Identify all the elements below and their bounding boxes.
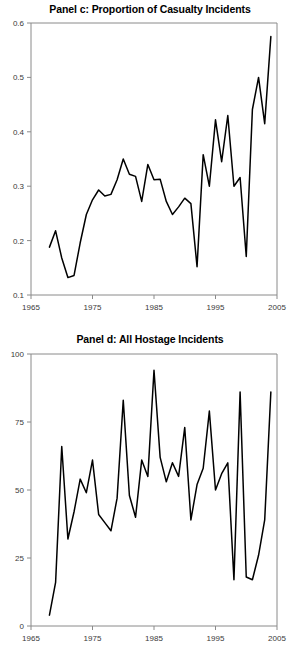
svg-d-xtick-label: 1985 [145, 634, 163, 643]
svg-c-ytick-label: 0.4 [13, 128, 25, 137]
panel-c-plot: 0.10.20.30.40.50.619651975198519952005 [0, 0, 300, 330]
svg-c-ytick-label: 0.6 [13, 19, 25, 28]
svg-d-series-line [49, 370, 270, 615]
svg-d-xtick-label: 1995 [207, 634, 225, 643]
svg-d-ytick-label: 50 [15, 486, 24, 495]
panel-d-plot: 025507510019651975198519952005 [0, 330, 300, 663]
svg-d-ytick-label: 25 [15, 554, 24, 563]
panel-d: Panel d: All Hostage Incidents 025507510… [0, 330, 300, 663]
svg-d-xtick-label: 2005 [268, 634, 286, 643]
svg-c-xtick-label: 1995 [207, 303, 225, 312]
svg-d-xtick-label: 1965 [22, 634, 40, 643]
svg-c-xtick-label: 2005 [268, 303, 286, 312]
svg-d-ytick-label: 75 [15, 418, 24, 427]
svg-c-xtick-label: 1985 [145, 303, 163, 312]
svg-d-xtick-label: 1975 [84, 634, 102, 643]
svg-c-ytick-label: 0.5 [13, 73, 25, 82]
svg-c-xtick-label: 1965 [22, 303, 40, 312]
svg-c-ytick-label: 0.3 [13, 182, 25, 191]
panel-c: Panel c: Proportion of Casualty Incident… [0, 0, 300, 330]
svg-d-ytick-label: 0 [20, 622, 25, 631]
svg-c-ytick-label: 0.2 [13, 237, 25, 246]
svg-c-ytick-label: 0.1 [13, 291, 25, 300]
figure-container: Panel c: Proportion of Casualty Incident… [0, 0, 300, 663]
svg-c-series-line [49, 37, 270, 278]
svg-c-xtick-label: 1975 [84, 303, 102, 312]
svg-d-ytick-label: 100 [11, 350, 25, 359]
